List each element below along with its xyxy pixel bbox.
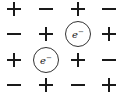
negative-ion-icon	[2, 24, 26, 44]
positive-ion-icon	[66, 0, 90, 19]
negative-ion-icon	[97, 0, 121, 19]
positive-ion-icon	[97, 24, 121, 44]
positive-ion-icon	[34, 24, 58, 44]
negative-ion-icon	[2, 75, 26, 95]
negative-ion-icon	[34, 0, 58, 19]
electron-circle: e−	[33, 47, 59, 73]
electron-circle: e−	[65, 21, 91, 47]
electron-label: e−	[40, 54, 52, 66]
positive-ion-icon	[34, 75, 58, 95]
negative-ion-icon	[97, 50, 121, 70]
positive-ion-icon	[2, 50, 26, 70]
positive-ion-icon	[97, 75, 121, 95]
positive-ion-icon	[2, 0, 26, 19]
electron-label: e−	[72, 28, 84, 40]
charge-lattice-diagram: e−e−	[0, 0, 124, 100]
positive-ion-icon	[66, 50, 90, 70]
negative-ion-icon	[66, 75, 90, 95]
